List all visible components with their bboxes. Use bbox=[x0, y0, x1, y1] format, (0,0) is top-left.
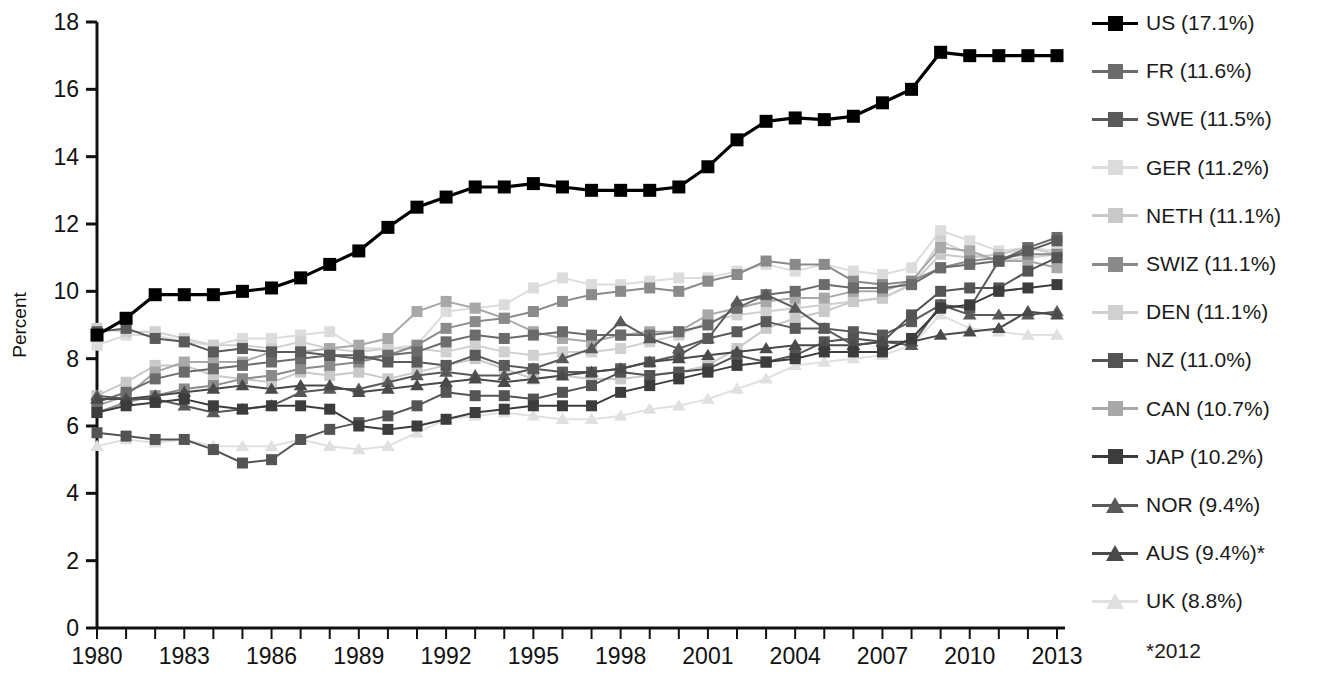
series-marker-square bbox=[208, 444, 219, 455]
series-marker-square bbox=[993, 286, 1004, 297]
legend-label: SWIZ (11.1%) bbox=[1146, 252, 1276, 276]
series-marker-square bbox=[92, 407, 103, 418]
series-marker-square bbox=[790, 286, 801, 297]
series-marker-square bbox=[207, 288, 220, 301]
axes-group bbox=[97, 22, 1065, 628]
series-marker-square bbox=[294, 271, 307, 284]
series-marker-square bbox=[993, 256, 1004, 267]
y-tick-label: 2 bbox=[66, 548, 79, 574]
series-marker-square bbox=[499, 346, 510, 357]
series-marker-square bbox=[963, 49, 976, 62]
legend-label: NETH (11.1%) bbox=[1146, 204, 1281, 228]
series-marker-square bbox=[237, 404, 248, 415]
series-marker-square bbox=[848, 282, 859, 293]
series-marker-square bbox=[381, 221, 394, 234]
y-tick-label: 14 bbox=[53, 144, 79, 170]
series-swe bbox=[92, 235, 1063, 377]
series-marker-square bbox=[412, 400, 423, 411]
legend-swatch-square-icon bbox=[1092, 157, 1138, 179]
series-marker-square bbox=[179, 394, 190, 405]
series-marker-triangle bbox=[1021, 305, 1035, 316]
y-tick-label: 6 bbox=[66, 413, 79, 439]
x-tick-label: 1998 bbox=[595, 643, 646, 669]
series-marker-square bbox=[149, 288, 162, 301]
legend-item-den[interactable]: DEN (11.1%) bbox=[1092, 297, 1268, 327]
legend-item-uk[interactable]: UK (8.8%) bbox=[1092, 586, 1243, 616]
x-tick-label: 1983 bbox=[159, 643, 210, 669]
legend-item-fr[interactable]: FR (11.6%) bbox=[1092, 56, 1252, 86]
series-marker-square bbox=[498, 180, 511, 193]
legend-item-aus[interactable]: AUS (9.4%)* bbox=[1092, 538, 1265, 568]
series-marker-square bbox=[585, 184, 598, 197]
legend-item-neth[interactable]: NETH (11.1%) bbox=[1092, 201, 1281, 231]
legend-label: CAN (10.7%) bbox=[1146, 397, 1270, 421]
series-marker-triangle bbox=[614, 315, 628, 326]
y-axis-title: Percent bbox=[9, 292, 30, 358]
legend-marker-square-icon bbox=[1108, 449, 1123, 464]
x-tick-label: 1992 bbox=[421, 643, 472, 669]
legend-swatch-triangle-icon bbox=[1092, 494, 1138, 516]
series-marker-square bbox=[702, 276, 713, 287]
series-marker-square bbox=[557, 387, 568, 398]
series-marker-square bbox=[848, 346, 859, 357]
series-marker-square bbox=[499, 404, 510, 415]
series-marker-square bbox=[790, 313, 801, 324]
legend-item-nz[interactable]: NZ (11.0%) bbox=[1092, 345, 1252, 375]
series-marker-square bbox=[964, 299, 975, 310]
series-marker-square bbox=[528, 350, 539, 361]
series-marker-square bbox=[556, 180, 569, 193]
series-marker-square bbox=[673, 286, 684, 297]
series-marker-square bbox=[935, 286, 946, 297]
series-marker-square bbox=[847, 110, 860, 123]
legend-marker-triangle-icon bbox=[1106, 545, 1124, 561]
legend-marker-square-icon bbox=[1108, 208, 1123, 223]
legend-item-ger[interactable]: GER (11.2%) bbox=[1092, 153, 1269, 183]
series-marker-square bbox=[877, 346, 888, 357]
legend-label: GER (11.2%) bbox=[1146, 156, 1269, 180]
series-marker-square bbox=[237, 343, 248, 354]
series-marker-square bbox=[643, 184, 656, 197]
legend-swatch-square-icon bbox=[1092, 108, 1138, 130]
legend-marker-square-icon bbox=[1108, 305, 1123, 320]
legend-swatch-square-icon bbox=[1092, 253, 1138, 275]
series-marker-square bbox=[527, 177, 540, 190]
y-tick-label: 8 bbox=[66, 346, 79, 372]
series-marker-square bbox=[352, 244, 365, 257]
legend-swatch-square-icon bbox=[1092, 446, 1138, 468]
series-marker-square bbox=[586, 400, 597, 411]
series-marker-square bbox=[935, 303, 946, 314]
series-marker-square bbox=[557, 326, 568, 337]
series-marker-square bbox=[120, 312, 133, 325]
series-marker-square bbox=[237, 458, 248, 469]
series-marker-square bbox=[1022, 266, 1033, 277]
series-marker-square bbox=[295, 400, 306, 411]
series-marker-square bbox=[353, 367, 364, 378]
legend-item-can[interactable]: CAN (10.7%) bbox=[1092, 394, 1270, 424]
series-marker-square bbox=[237, 360, 248, 371]
legend-item-jap[interactable]: JAP (10.2%) bbox=[1092, 442, 1264, 472]
legend-item-nor[interactable]: NOR (9.4%) bbox=[1092, 490, 1260, 520]
legend-swatch-square-icon bbox=[1092, 301, 1138, 323]
x-tick-label: 2001 bbox=[682, 643, 733, 669]
series-marker-square bbox=[266, 454, 277, 465]
series-marker-triangle bbox=[759, 372, 773, 383]
legend-marker-square-icon bbox=[1108, 257, 1123, 272]
series-marker-square bbox=[1052, 235, 1063, 246]
series-marker-square bbox=[732, 360, 743, 371]
series-marker-square bbox=[324, 404, 335, 415]
series-marker-square bbox=[702, 367, 713, 378]
series-marker-square bbox=[934, 46, 947, 59]
legend-marker-square-icon bbox=[1108, 16, 1123, 31]
x-tick-label: 1989 bbox=[333, 643, 384, 669]
y-tick-label: 10 bbox=[53, 278, 79, 304]
series-marker-square bbox=[702, 309, 713, 320]
legend-item-us[interactable]: US (17.1%) bbox=[1092, 8, 1255, 38]
legend-item-swiz[interactable]: SWIZ (11.1%) bbox=[1092, 249, 1276, 279]
series-marker-square bbox=[819, 259, 830, 270]
legend-label: AUS (9.4%)* bbox=[1146, 541, 1265, 565]
series-marker-square bbox=[586, 330, 597, 341]
series-marker-square bbox=[1051, 49, 1064, 62]
legend-item-swe[interactable]: SWE (11.5%) bbox=[1092, 104, 1272, 134]
series-marker-square bbox=[92, 427, 103, 438]
series-marker-square bbox=[906, 262, 917, 273]
